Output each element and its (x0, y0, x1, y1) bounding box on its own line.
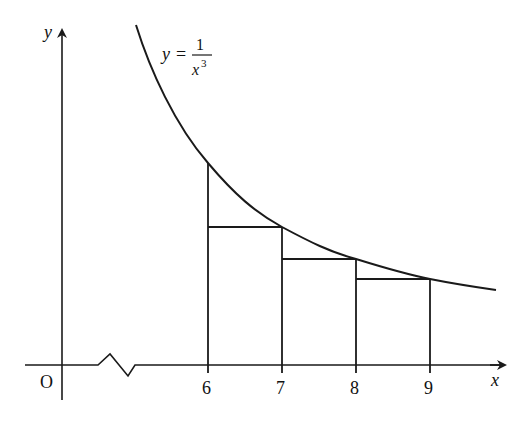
equation-denominator-exp: 3 (201, 57, 207, 69)
tick-label-6: 6 (202, 378, 211, 398)
curve (136, 25, 496, 290)
origin-label: O (40, 372, 53, 392)
tick-label-9: 9 (424, 378, 433, 398)
y-axis-label: y (42, 22, 52, 42)
tick-label-8: 8 (350, 378, 359, 398)
x-axis-break-icon (25, 354, 500, 376)
tick-label-7: 7 (276, 378, 285, 398)
riemann-sum-diagram: y x O 6 7 8 9 y = 1 x 3 (0, 0, 524, 432)
x-axis-label: x (490, 370, 499, 390)
rectangles (208, 163, 430, 373)
equation-numerator: 1 (196, 36, 204, 53)
equation-lhs: y (160, 44, 170, 64)
equation-equals: = (176, 44, 186, 64)
curve-equation-label: y = 1 x 3 (160, 36, 212, 78)
equation-denominator-base: x (191, 61, 199, 78)
x-axis (25, 354, 500, 376)
